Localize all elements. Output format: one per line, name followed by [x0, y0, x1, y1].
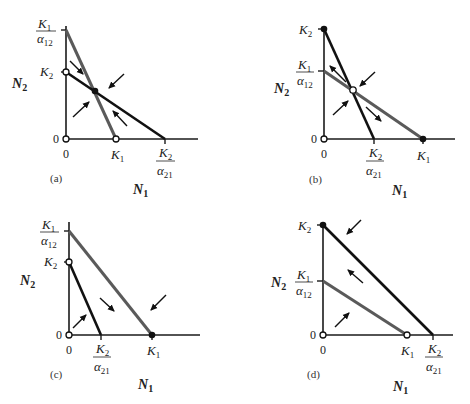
- panel-caption: (d): [307, 368, 320, 381]
- arrow-icon: [73, 102, 89, 117]
- panel-c: K1 α12 K2 0 0 K2 α21 K1 N2 N1 (c): [19, 217, 200, 394]
- svg-text:K1: K1: [297, 57, 311, 74]
- x-tick-zero: 0: [63, 147, 69, 161]
- origin-dot: [63, 136, 69, 142]
- species2-isocline: [69, 262, 101, 335]
- panel-caption: (b): [309, 173, 322, 186]
- svg-text:α21: α21: [366, 163, 382, 180]
- y-tick-K2: K2: [298, 22, 312, 39]
- species2-isocline: [324, 29, 374, 139]
- x-axis-label: N1: [391, 183, 407, 200]
- arrow-icon: [347, 220, 361, 234]
- unstable-equilibrium-dot: [404, 332, 410, 338]
- arrow-icon: [335, 313, 349, 327]
- arrow-icon: [360, 72, 375, 86]
- species2-isocline: [323, 225, 433, 335]
- stable-equilibrium-dot: [420, 136, 427, 143]
- x-tick-K2-over-alpha21: K2 α21: [366, 145, 384, 180]
- arrow-icon: [348, 270, 363, 283]
- unstable-equilibrium-dot: [66, 259, 72, 265]
- competition-isocline-figure: K1 α12 K2 0 0 K1 K2 α21 N2 N1 (a): [0, 0, 470, 404]
- y-tick-zero: 0: [56, 328, 62, 342]
- y-tick-zero: 0: [311, 132, 317, 146]
- y-tick-K2: K2: [297, 218, 311, 235]
- svg-text:α21: α21: [426, 359, 442, 376]
- y-tick-K1-over-alpha12: K1 α12: [40, 217, 59, 250]
- x-axis-label: N1: [137, 377, 153, 394]
- panel-a: K1 α12 K2 0 0 K1 K2 α21 N2 N1 (a): [11, 16, 198, 199]
- x-tick-K2-over-alpha21: K2 α21: [156, 145, 175, 180]
- species1-isocline: [324, 71, 423, 139]
- unstable-equilibrium-dot: [63, 69, 69, 75]
- x-tick-K2-over-alpha21: K2 α21: [425, 341, 443, 376]
- svg-text:K2: K2: [427, 341, 441, 358]
- x-tick-K1: K1: [146, 343, 160, 360]
- stable-equilibrium-dot: [320, 222, 327, 229]
- species1-isocline: [66, 30, 116, 139]
- x-axis-label: N1: [392, 379, 408, 396]
- svg-text:K1: K1: [296, 267, 310, 284]
- y-tick-K1-over-alpha12: K1 α12: [295, 267, 313, 300]
- x-tick-zero: 0: [321, 147, 327, 161]
- panel-b: K2 K1 α12 0 0 K2 α21 K1 N2 N1 (b): [273, 22, 455, 200]
- y-tick-K1-over-alpha12: K1 α12: [296, 57, 314, 90]
- stable-equilibrium-dot: [92, 88, 99, 95]
- panel-d: K2 K1 α12 0 0 K1 K2 α21 N2 N1 (d): [270, 218, 453, 396]
- svg-text:α12: α12: [41, 233, 57, 250]
- x-tick-K2-over-alpha21: K2 α21: [93, 341, 111, 376]
- x-tick-K1: K1: [110, 147, 124, 164]
- y-axis-label: N2: [11, 76, 27, 93]
- arrow-icon: [100, 298, 114, 311]
- arrow-icon: [73, 315, 86, 328]
- y-axis-label: N2: [273, 81, 289, 98]
- stable-equilibrium-dot: [321, 26, 328, 33]
- y-tick-K1-over-alpha12: K1 α12: [36, 16, 56, 48]
- x-tick-K1: K1: [400, 343, 414, 360]
- y-tick-K2: K2: [39, 64, 53, 81]
- svg-text:α21: α21: [94, 359, 110, 376]
- arrow-icon: [109, 74, 124, 88]
- y-axis-label: N2: [19, 273, 35, 290]
- arrow-icon: [333, 101, 348, 115]
- svg-text:K1: K1: [41, 217, 55, 234]
- svg-text:K2: K2: [158, 145, 172, 162]
- panel-caption: (c): [50, 368, 63, 381]
- svg-text:K2: K2: [368, 145, 382, 162]
- origin-dot: [66, 332, 72, 338]
- stable-equilibrium-dot: [149, 332, 156, 339]
- svg-text:α12: α12: [296, 283, 312, 300]
- x-axis-label: N1: [132, 182, 148, 199]
- panel-caption: (a): [50, 172, 63, 185]
- unstable-equilibrium-dot: [113, 136, 119, 142]
- x-tick-zero: 0: [66, 343, 72, 357]
- y-axis-label: N2: [270, 275, 286, 292]
- unstable-equilibrium-dot: [350, 87, 356, 93]
- svg-text:α12: α12: [37, 31, 53, 48]
- x-tick-zero: 0: [320, 343, 326, 357]
- y-tick-zero: 0: [53, 132, 59, 146]
- origin-dot: [321, 136, 327, 142]
- y-tick-zero: 0: [310, 328, 316, 342]
- svg-text:K2: K2: [95, 341, 109, 358]
- y-tick-K2: K2: [43, 254, 57, 271]
- x-tick-K1: K1: [416, 148, 430, 165]
- arrow-icon: [151, 295, 166, 310]
- svg-text:α12: α12: [297, 73, 313, 90]
- origin-dot: [320, 332, 326, 338]
- svg-text:α21: α21: [157, 163, 173, 180]
